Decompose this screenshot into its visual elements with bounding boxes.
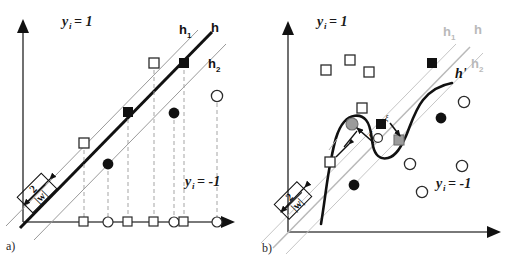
axis-open-circle-marker xyxy=(212,217,222,227)
hyperplane-h-base: h xyxy=(474,22,482,37)
open-circle-marker xyxy=(211,90,222,101)
hyperplane-h1-subscript: 1 xyxy=(451,33,456,42)
filled-circle-marker xyxy=(436,113,447,124)
open-circle-marker xyxy=(456,160,467,171)
open-circle-marker xyxy=(458,96,469,107)
hyperplane-h1-base: h xyxy=(179,22,187,37)
filled-circle-marker xyxy=(349,180,360,191)
panel-a-class-pos-label: y i = 1 xyxy=(60,14,92,31)
class-pos-value: = 1 xyxy=(74,14,92,29)
open-circle-marker xyxy=(374,134,383,143)
figure-canvas: 2 |w| y i = 1 y i = -1 h 1 xyxy=(0,0,510,262)
open-square-marker xyxy=(325,157,335,167)
class-neg-variable: y xyxy=(183,174,192,189)
hyperplane-h2-subscript: 2 xyxy=(479,65,484,74)
panel-b-class-pos-label: y i = 1 xyxy=(315,14,347,31)
slack-label-xi-1: ξ xyxy=(385,114,389,123)
gray-filled-square-marker xyxy=(394,135,404,145)
slack-label-xi-2: ξ xyxy=(369,130,373,139)
filled-square-marker xyxy=(427,58,437,68)
class-neg-value: = -1 xyxy=(197,174,220,189)
panel-b-caption: b) xyxy=(262,241,272,255)
panel-a-caption: a) xyxy=(6,239,15,253)
open-square-marker xyxy=(364,67,374,77)
axis-open-square-marker xyxy=(79,217,88,226)
filled-circle-marker xyxy=(169,108,180,119)
filled-square-marker xyxy=(123,107,133,117)
class-neg-value: = -1 xyxy=(448,176,471,191)
open-square-marker xyxy=(149,58,159,68)
hyperplane-h2-base: h xyxy=(208,56,216,71)
gray-filled-circle-marker xyxy=(346,118,358,130)
open-square-marker xyxy=(357,103,367,113)
axis-open-circle-marker xyxy=(103,217,113,227)
filled-circle-marker xyxy=(103,159,114,170)
hyperplane-h1-base: h xyxy=(443,24,451,39)
open-square-marker xyxy=(345,55,355,65)
panel-a-label-h: h xyxy=(211,20,219,35)
open-circle-marker xyxy=(404,158,415,169)
panel-b-class-neg-label: y i = -1 xyxy=(434,176,471,193)
class-pos-variable: y xyxy=(315,14,324,29)
class-pos-value: = 1 xyxy=(329,14,347,29)
open-square-marker xyxy=(321,65,331,75)
axis-open-square-marker xyxy=(123,217,132,226)
panel-b-label-h: h xyxy=(474,22,482,37)
axis-open-square-marker xyxy=(179,217,188,226)
hyperplane-h-base: h xyxy=(211,20,219,35)
hyperplane-h1-subscript: 1 xyxy=(187,31,192,40)
hyperplane-h2-subscript: 2 xyxy=(216,65,221,74)
panel-a-class-neg-label: y i = -1 xyxy=(183,174,220,191)
class-pos-variable: y xyxy=(60,14,69,29)
open-circle-marker xyxy=(416,186,427,197)
class-neg-variable: y xyxy=(434,176,443,191)
filled-square-marker xyxy=(179,58,189,68)
svm-figure: 2 |w| y i = 1 y i = -1 h 1 xyxy=(0,0,510,262)
hyperplane-h2-base: h xyxy=(471,56,479,71)
axis-open-circle-marker xyxy=(169,217,179,227)
panel-b-label-h-prime: h' xyxy=(455,66,467,81)
axis-open-square-marker xyxy=(149,217,158,226)
open-square-marker xyxy=(79,138,89,148)
